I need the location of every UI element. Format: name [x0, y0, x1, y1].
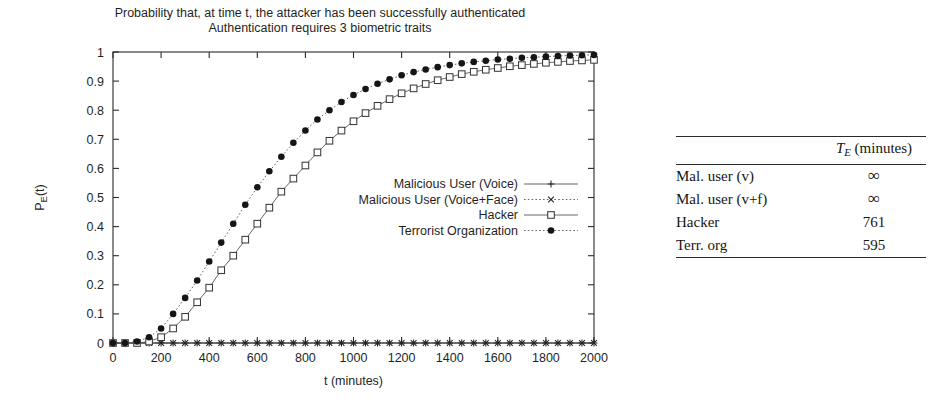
data-point [386, 76, 393, 83]
data-point [495, 65, 502, 72]
te-subscript: E [844, 146, 851, 158]
te-symbol: T [836, 140, 844, 156]
data-point [519, 62, 526, 69]
data-point [134, 338, 141, 345]
data-point [218, 239, 225, 246]
data-point [194, 299, 201, 306]
x-axis-title: t (minutes) [324, 374, 383, 388]
data-point [158, 334, 165, 341]
data-point [543, 53, 550, 60]
table-header-blank [676, 137, 822, 165]
data-point [410, 69, 417, 76]
data-point [422, 81, 429, 88]
svg-text:PE(t): PE(t) [33, 184, 49, 211]
data-point [543, 59, 550, 66]
data-point [314, 149, 321, 156]
data-point [338, 99, 345, 106]
y-tick-label: 0.3 [87, 249, 104, 263]
data-point [266, 204, 273, 211]
table-cell-te-value: 595 [822, 234, 926, 258]
table-cell-attacker: Hacker [676, 211, 822, 234]
y-tick-label: 0.2 [87, 278, 104, 292]
y-tick-label: 0.8 [87, 104, 104, 118]
data-point [302, 162, 309, 169]
x-tick-label: 1000 [340, 351, 368, 365]
data-point [567, 52, 574, 59]
data-point [242, 236, 249, 243]
x-tick-label: 1800 [532, 351, 560, 365]
data-point [482, 66, 489, 73]
table-row: Mal. user (v+f)∞ [676, 188, 926, 211]
data-point [254, 220, 261, 227]
data-point [482, 57, 489, 64]
data-point [218, 267, 225, 274]
data-point [170, 325, 177, 332]
table-cell-te-value: 761 [822, 211, 926, 234]
data-point [434, 64, 441, 71]
data-point [398, 90, 405, 97]
data-point [579, 52, 586, 59]
data-point [495, 56, 502, 63]
chart-figure: Probability that, at time t, the attacke… [0, 0, 640, 412]
y-tick-label: 0.6 [87, 162, 104, 176]
data-point [158, 325, 165, 332]
data-point [194, 277, 201, 284]
data-point [422, 66, 429, 73]
data-point [314, 116, 321, 123]
table-cell-attacker: Mal. user (v) [676, 164, 822, 188]
data-point [182, 295, 189, 302]
data-point [326, 107, 333, 114]
data-point [531, 61, 538, 68]
data-point [374, 80, 381, 87]
data-point [122, 340, 129, 347]
data-point [242, 201, 249, 208]
table-cell-te-value: ∞ [822, 188, 926, 211]
data-point [548, 181, 555, 188]
data-point [290, 139, 297, 146]
data-point [470, 59, 477, 66]
y-axis-title: PE(t) [33, 184, 49, 211]
data-point [338, 127, 345, 134]
legend-label: Terrorist Organization [399, 224, 519, 238]
y-tick-label: 0.4 [87, 220, 104, 234]
data-point [519, 55, 526, 62]
plot-area: 020040060080010001200140016001800200000.… [0, 0, 640, 412]
data-point [374, 103, 381, 110]
data-point [548, 212, 555, 219]
data-point [146, 334, 153, 341]
x-tick-label: 800 [295, 351, 316, 365]
chart-legend: Malicious User (Voice)Malicious User (Vo… [359, 177, 578, 238]
data-point [230, 252, 237, 259]
table-row: Mal. user (v)∞ [676, 164, 926, 188]
data-point [458, 71, 465, 78]
y-tick-label: 1 [97, 46, 104, 60]
screenshot-root: Probability that, at time t, the attacke… [0, 0, 950, 412]
table-row: Terr. org595 [676, 234, 926, 258]
data-point [555, 59, 562, 66]
x-tick-label: 200 [151, 351, 172, 365]
table-cell-attacker: Mal. user (v+f) [676, 188, 822, 211]
data-point [591, 52, 598, 59]
table-row: Hacker761 [676, 211, 926, 234]
legend-label: Malicious User (Voice+Face) [359, 193, 518, 207]
table-header-te: TE (minutes) [822, 137, 926, 165]
y-tick-label: 0 [97, 337, 104, 351]
data-point [548, 227, 555, 234]
x-tick-label: 600 [247, 351, 268, 365]
table-cell-attacker: Terr. org [676, 234, 822, 258]
x-tick-label: 0 [110, 351, 117, 365]
series-open-square [110, 57, 598, 347]
y-tick-label: 0.1 [87, 307, 104, 321]
data-point [362, 86, 369, 93]
table-cell-te-value: ∞ [822, 164, 926, 188]
data-point [410, 85, 417, 92]
data-point [350, 118, 357, 125]
data-point [230, 220, 237, 227]
legend-label: Malicious User (Voice) [394, 177, 518, 191]
legend-label: Hacker [478, 208, 518, 222]
x-tick-label: 2000 [580, 351, 608, 365]
data-point [266, 168, 273, 175]
data-point [326, 137, 333, 144]
x-tick-label: 1600 [484, 351, 512, 365]
data-point [278, 153, 285, 160]
